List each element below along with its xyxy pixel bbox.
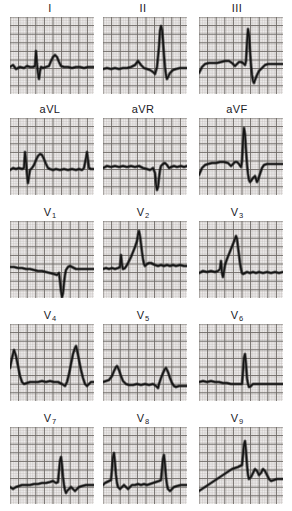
lead-label-base: I [48,2,51,14]
lead-label-base: V [231,206,239,218]
lead-label-base: II [140,2,147,14]
ecg-strip-lead-v1 [10,221,94,298]
ecg-cell-lead-ii: II [97,0,189,101]
ecg-cell-lead-avl: aVL [4,101,96,202]
ecg-row-0: IIIIII [0,0,292,101]
ecg-cell-lead-v2: V2 [97,204,189,305]
ecg-strip-wrapper-lead-avf [199,118,283,195]
lead-label-subscript: 1 [52,211,57,220]
lead-label-base: V [137,309,145,321]
ecg-strip-lead-v6 [199,324,283,401]
lead-label-base: V [231,309,239,321]
ecg-strip-wrapper-lead-v2 [103,221,187,298]
ecg-cell-lead-v5: V5 [97,307,189,408]
ecg-strip-lead-v7 [10,427,94,504]
ecg-strip-wrapper-lead-ii [103,17,187,94]
ecg-strip-wrapper-lead-v7 [10,427,94,504]
ecg-cell-lead-v3: V3 [191,204,283,305]
ecg-strip-lead-avf [199,118,283,195]
lead-label-subscript: 2 [145,211,150,220]
lead-label-subscript: 3 [239,211,244,220]
ecg-strip-lead-v2 [103,221,187,298]
lead-label-base: V [137,412,145,424]
ecg-cell-lead-v6: V6 [191,307,283,408]
lead-label-base: V [231,412,239,424]
lead-label-subscript: 6 [239,314,244,323]
lead-label-lead-v1: V1 [4,204,96,221]
ecg-tracing-sheet: IIIIIIaVLaVRaVFV1V2V3V4V5V6V7V8V9 [0,0,292,511]
lead-label-base: V [44,412,52,424]
ecg-row-3: V4V5V6 [0,307,292,408]
lead-label-subscript: 8 [145,417,150,426]
ecg-strip-lead-iii [199,17,283,94]
lead-label-subscript: 7 [52,417,57,426]
ecg-row-4: V7V8V9 [0,410,292,511]
lead-label-subscript: 9 [239,417,244,426]
lead-label-base: III [232,2,242,14]
ecg-cell-lead-v7: V7 [4,410,96,511]
lead-label-lead-avl: aVL [4,101,96,118]
lead-label-base: V [137,206,145,218]
ecg-cell-lead-iii: III [191,0,283,101]
ecg-cell-lead-v1: V1 [4,204,96,305]
ecg-strip-wrapper-lead-i [10,17,94,94]
lead-label-lead-avr: aVR [97,101,189,118]
lead-label-lead-iii: III [191,0,283,17]
ecg-strip-lead-v3 [199,221,283,298]
ecg-strip-wrapper-lead-v5 [103,324,187,401]
ecg-strip-lead-v5 [103,324,187,401]
ecg-strip-wrapper-lead-iii [199,17,283,94]
lead-label-base: aVL [40,103,61,115]
lead-label-subscript: 4 [52,314,57,323]
lead-label-lead-v8: V8 [97,410,189,427]
ecg-strip-lead-avr [103,118,187,195]
ecg-strip-wrapper-lead-avr [103,118,187,195]
ecg-cell-lead-v4: V4 [4,307,96,408]
lead-label-lead-v7: V7 [4,410,96,427]
lead-label-base: aVF [226,103,247,115]
ecg-row-1: aVLaVRaVF [0,101,292,202]
lead-label-lead-v2: V2 [97,204,189,221]
ecg-cell-lead-v8: V8 [97,410,189,511]
ecg-cell-lead-avf: aVF [191,101,283,202]
lead-label-base: aVR [132,103,155,115]
lead-label-lead-v9: V9 [191,410,283,427]
ecg-cell-lead-i: I [4,0,96,101]
ecg-strip-wrapper-lead-v9 [199,427,283,504]
lead-label-lead-ii: II [97,0,189,17]
ecg-strip-wrapper-lead-v3 [199,221,283,298]
ecg-strip-lead-avl [10,118,94,195]
ecg-strip-wrapper-lead-v4 [10,324,94,401]
lead-label-base: V [44,206,52,218]
lead-label-lead-v3: V3 [191,204,283,221]
ecg-strip-lead-v9 [199,427,283,504]
lead-label-lead-v6: V6 [191,307,283,324]
lead-label-lead-avf: aVF [191,101,283,118]
ecg-strip-wrapper-lead-avl [10,118,94,195]
ecg-cell-lead-v9: V9 [191,410,283,511]
ecg-strip-lead-v8 [103,427,187,504]
ecg-strip-lead-i [10,17,94,94]
ecg-cell-lead-avr: aVR [97,101,189,202]
lead-label-lead-v4: V4 [4,307,96,324]
ecg-strip-wrapper-lead-v1 [10,221,94,298]
lead-label-lead-i: I [4,0,96,17]
ecg-strip-wrapper-lead-v6 [199,324,283,401]
lead-label-subscript: 5 [145,314,150,323]
ecg-strip-wrapper-lead-v8 [103,427,187,504]
lead-label-base: V [44,309,52,321]
ecg-row-2: V1V2V3 [0,204,292,305]
ecg-strip-lead-v4 [10,324,94,401]
lead-label-lead-v5: V5 [97,307,189,324]
ecg-strip-lead-ii [103,17,187,94]
